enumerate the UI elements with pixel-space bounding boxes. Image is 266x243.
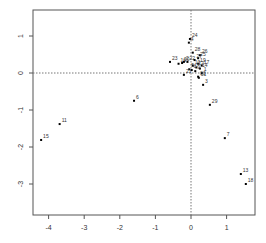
y-tick-label: -1	[17, 107, 24, 113]
point-label: 23	[172, 55, 178, 61]
data-point	[183, 74, 185, 76]
data-point	[59, 123, 61, 125]
data-point	[169, 61, 171, 63]
point-label: 5	[191, 62, 194, 68]
data-point	[181, 62, 183, 64]
point-label: 7	[227, 131, 230, 137]
data-point	[178, 63, 180, 65]
data-point	[245, 183, 247, 185]
data-point	[40, 139, 42, 141]
x-tick-label: -3	[81, 224, 87, 231]
point-label: 6	[136, 94, 139, 100]
data-point	[186, 61, 188, 63]
point-label: 31	[201, 71, 207, 77]
point-label: 8	[194, 63, 197, 69]
point-label: 3	[205, 78, 208, 84]
data-point	[209, 104, 211, 106]
point-label: 13	[243, 167, 249, 173]
y-tick-label: 1	[17, 34, 24, 38]
data-point	[133, 100, 135, 102]
data-point	[240, 173, 242, 175]
point-label: 21	[186, 68, 192, 74]
point-label: 2	[186, 55, 189, 61]
plot-canvas: -4-3-2-101-3-2-1012442826252316202222719…	[0, 0, 266, 243]
point-label: 4	[191, 36, 194, 42]
data-point	[198, 77, 200, 79]
data-point	[192, 52, 194, 54]
point-label: 15	[43, 133, 49, 139]
data-point	[183, 61, 185, 63]
data-point	[202, 84, 204, 86]
y-tick-label: -3	[17, 181, 24, 187]
data-point	[224, 137, 226, 139]
data-point	[188, 42, 190, 44]
x-tick-label: 1	[225, 224, 229, 231]
x-tick-label: -4	[45, 224, 51, 231]
y-tick-label: 0	[17, 71, 24, 75]
x-tick-label: -1	[152, 224, 158, 231]
scatter-plot: -4-3-2-101-3-2-1012442826252316202222719…	[0, 0, 266, 243]
data-point	[194, 70, 196, 72]
y-tick-label: -2	[17, 144, 24, 150]
plot-frame	[33, 10, 255, 215]
x-tick-label: -2	[117, 224, 123, 231]
point-label: 29	[212, 98, 218, 104]
x-tick-label: 0	[189, 224, 193, 231]
point-label: 18	[248, 177, 254, 183]
point-label: 11	[62, 117, 67, 123]
